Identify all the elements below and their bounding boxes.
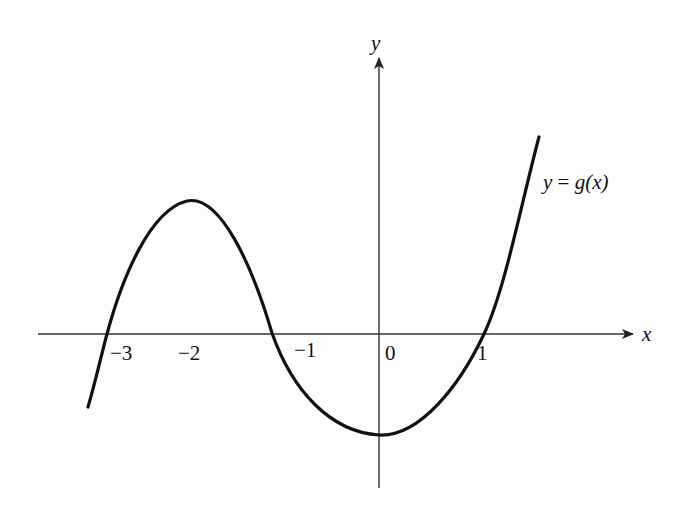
tick-label-0: 0 [385,341,396,365]
curve-label-eq: = [552,170,574,194]
curve-label-rhs: g(x) [575,170,609,194]
tick-label-1: 1 [477,341,488,365]
curve-g [88,137,539,435]
y-axis-label: y [369,31,381,55]
chart-canvas: y x −3 −2 −1 0 1 y = g(x) [0,0,686,511]
x-axis-label: x [641,322,652,346]
tick-label-neg1: −1 [294,338,316,362]
curve-label-lhs: y [541,170,553,194]
tick-label-neg2: −2 [178,341,200,365]
graph-svg: y x −3 −2 −1 0 1 y = g(x) [0,0,686,511]
tick-label-neg3: −3 [110,341,132,365]
curve-label: y = g(x) [541,170,608,194]
